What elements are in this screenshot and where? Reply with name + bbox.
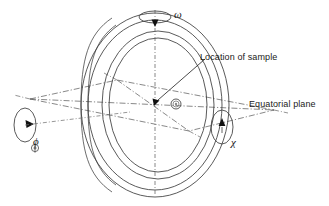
diagram-linework <box>14 10 288 197</box>
sample-marker-icon <box>171 99 181 109</box>
sample-location-label: Location of sample <box>200 53 277 62</box>
omega-label: ω <box>174 9 182 20</box>
equatorial-plane-label: Equatorial plane <box>249 100 316 109</box>
goniometer-diagram: ω ϕ χ Location of sample Equatorial plan… <box>0 0 329 206</box>
phi-label: ϕ <box>33 136 39 147</box>
sample-leader <box>153 59 206 106</box>
equatorial-plane-outline <box>30 80 274 131</box>
chi-label: χ <box>231 137 236 148</box>
ring-depth-connectors <box>81 18 116 192</box>
